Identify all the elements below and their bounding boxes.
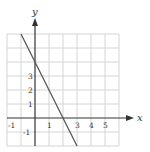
y-tick: -1 [23,128,30,137]
x-tick: 3 [75,121,80,130]
x-axis-label: x [137,112,143,123]
graph: y x -1 1 3 4 5 3 2 1 -1 [0,0,150,152]
y-tick: 3 [28,72,33,81]
x-tick: 4 [89,121,94,130]
x-axis-arrow-icon [126,115,134,121]
x-tick: -1 [8,121,15,130]
x-tick: 1 [47,121,52,130]
y-axis-label: y [31,6,38,17]
y-tick: 2 [28,86,33,95]
x-tick: 5 [103,121,108,130]
y-axis-arrow-icon [32,18,38,26]
y-tick: 1 [28,100,33,109]
